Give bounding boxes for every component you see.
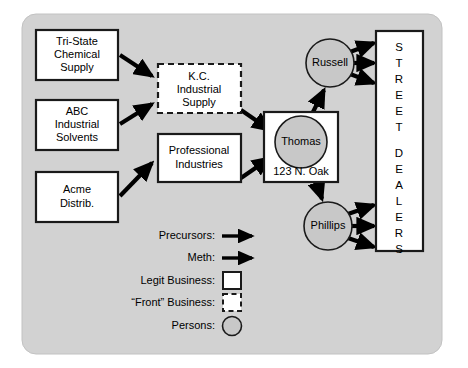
dealer-letter: E xyxy=(395,163,403,175)
dealer-letter: T xyxy=(395,57,402,69)
dealer-letter: R xyxy=(395,73,403,85)
node-phillips[interactable]: Phillips xyxy=(304,202,352,250)
node-kc-industrial-supply[interactable]: K.C. Industrial Supply xyxy=(158,64,241,113)
dealer-letter: R xyxy=(395,227,403,239)
legend-label: “Front” Business: xyxy=(131,296,215,308)
node-street-dealers[interactable]: S T R E E T D E A L E R S xyxy=(376,31,423,255)
dealer-letter: E xyxy=(395,89,403,101)
node-label: Solvents xyxy=(56,131,99,143)
dealer-letter: S xyxy=(395,41,403,53)
legend-label: Meth: xyxy=(187,251,215,263)
node-label: K.C. xyxy=(188,70,209,82)
network-flow-diagram: Tri-State Chemical Supply ABC Industrial… xyxy=(0,0,468,368)
node-professional-industries[interactable]: Professional Industries xyxy=(158,134,241,182)
node-abc-industrial-solvents[interactable]: ABC Industrial Solvents xyxy=(36,100,118,150)
dealer-letter: L xyxy=(396,195,403,207)
node-label: Phillips xyxy=(311,219,346,231)
node-label: Supply xyxy=(60,61,94,73)
node-label: Industrial xyxy=(55,118,100,130)
node-label: Chemical xyxy=(54,48,100,60)
node-thomas-lab[interactable]: Thomas 123 N. Oak xyxy=(264,112,338,182)
node-label: Distrib. xyxy=(60,197,94,209)
node-label: Industrial xyxy=(177,83,222,95)
legit-business-swatch-icon xyxy=(223,272,241,289)
node-label: Industries xyxy=(175,158,223,170)
legend-label: Precursors: xyxy=(159,229,215,241)
dealer-letter: A xyxy=(395,179,403,191)
node-russell[interactable]: Russell xyxy=(306,39,354,87)
dealer-letter: E xyxy=(395,105,403,117)
dealer-letter: D xyxy=(395,147,403,159)
node-label: Acme xyxy=(63,183,91,195)
node-label: Russell xyxy=(312,56,348,68)
dealer-letter: T xyxy=(395,121,402,133)
node-label: Thomas xyxy=(281,135,321,147)
dealer-letter: S xyxy=(395,243,403,255)
dealer-letter: E xyxy=(395,211,403,223)
node-label: ABC xyxy=(66,105,89,117)
diagram-stage: Tri-State Chemical Supply ABC Industrial… xyxy=(0,0,468,368)
legend-label: Legit Business: xyxy=(140,274,215,286)
node-tri-state-chemical-supply[interactable]: Tri-State Chemical Supply xyxy=(36,30,118,80)
front-business-swatch-icon xyxy=(223,294,241,311)
address-label: 123 N. Oak xyxy=(273,165,329,177)
persons-swatch-icon xyxy=(223,317,242,336)
node-label: Professional xyxy=(169,144,230,156)
node-label: Tri-State xyxy=(56,35,98,47)
node-label: Supply xyxy=(182,96,216,108)
legend-label: Persons: xyxy=(172,319,215,331)
node-acme-distrib[interactable]: Acme Distrib. xyxy=(36,172,118,222)
